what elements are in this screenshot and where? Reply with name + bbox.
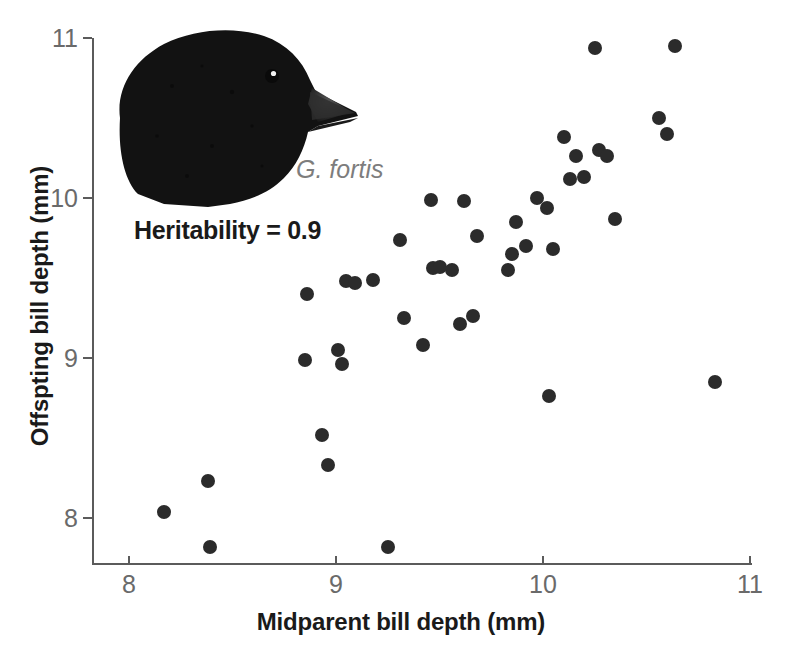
data-point	[445, 263, 459, 277]
data-point	[424, 193, 438, 207]
data-point	[509, 215, 523, 229]
data-point	[397, 311, 411, 325]
data-point	[433, 260, 447, 274]
data-point	[300, 287, 314, 301]
data-point	[569, 149, 583, 163]
data-point	[540, 201, 554, 215]
data-point	[600, 149, 614, 163]
data-point	[393, 233, 407, 247]
data-point	[201, 474, 215, 488]
scatter-plot-figure: G. fortis Heritability = 0.9 891011 8910…	[0, 0, 802, 654]
data-point	[577, 170, 591, 184]
data-point	[366, 273, 380, 287]
data-point	[315, 428, 329, 442]
data-point	[348, 276, 362, 290]
data-point	[335, 357, 349, 371]
data-point	[203, 540, 217, 554]
data-point	[466, 309, 480, 323]
data-point	[546, 242, 560, 256]
data-point	[668, 39, 682, 53]
data-point	[563, 172, 577, 186]
data-point	[588, 41, 602, 55]
data-point	[519, 239, 533, 253]
data-point	[608, 212, 622, 226]
data-point	[381, 540, 395, 554]
data-point	[157, 505, 171, 519]
x-axis-title: Midparent bill depth (mm)	[0, 608, 802, 636]
data-point	[557, 130, 571, 144]
data-point	[416, 338, 430, 352]
data-point	[501, 263, 515, 277]
y-axis-title: Offspting bill depth (mm)	[26, 96, 54, 516]
data-point	[660, 127, 674, 141]
data-point	[321, 458, 335, 472]
data-point	[331, 343, 345, 357]
data-point	[708, 375, 722, 389]
data-point	[542, 389, 556, 403]
data-point	[652, 111, 666, 125]
data-point	[298, 353, 312, 367]
data-point	[470, 229, 484, 243]
plot-area	[0, 0, 802, 654]
data-point	[457, 194, 471, 208]
data-point	[453, 317, 467, 331]
data-point	[505, 247, 519, 261]
